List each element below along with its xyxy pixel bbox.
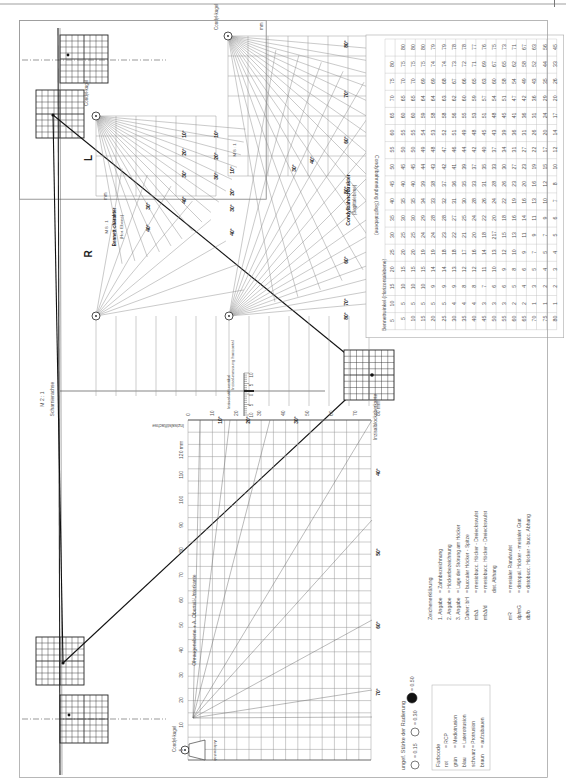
- table-cell: 17: [552, 112, 558, 118]
- zeichen-key: mR: [507, 612, 513, 620]
- zeichen-value: = mesialer Randwulst: [507, 544, 513, 593]
- table-cell: 64: [420, 95, 426, 101]
- table-cell: 8: [511, 268, 517, 271]
- table-cell: 55: [410, 130, 416, 136]
- table-cell: 4: [461, 302, 467, 305]
- table-row-header: 30: [451, 316, 457, 322]
- stift-tick: 70: [352, 410, 358, 416]
- table-row-header: 45: [481, 316, 487, 322]
- table-cell: 80: [400, 44, 406, 50]
- ohraugen-fan-angle: 10°: [217, 416, 223, 424]
- table-cell: 22: [501, 198, 507, 204]
- ohraugen-fan-line: [193, 420, 200, 718]
- table-cell: 60: [400, 112, 406, 118]
- condyl-angle-label: 50°: [343, 186, 349, 194]
- ohraugen-tick: 5: [178, 748, 184, 751]
- table-cell: 69: [430, 78, 436, 84]
- table-cell: 53: [471, 112, 477, 118]
- stift-tick: 40: [280, 410, 286, 416]
- farbcode-meaning: = Mediotrusion: [452, 715, 458, 748]
- table-cell: 52: [531, 61, 537, 67]
- bennett-angle-label: 40°: [145, 224, 151, 232]
- table-cell: 5: [511, 285, 517, 288]
- table-cell: 33: [552, 61, 558, 67]
- table-cell: 80: [420, 44, 426, 50]
- table-col-header: 25: [389, 249, 395, 255]
- condyl-ball-center: [228, 315, 230, 317]
- condyl-angle-label: 80°: [343, 40, 349, 48]
- table-cell: 25: [461, 215, 467, 221]
- table-cell: 32: [441, 198, 447, 204]
- ohraugen-tick: 80: [178, 547, 184, 553]
- table-cell: 5: [430, 302, 436, 305]
- table-col-header: 60: [389, 130, 395, 136]
- sag-vert-point-top: [67, 54, 70, 57]
- table-cell: 36: [451, 181, 457, 187]
- radierung-size-label: = 0.15: [412, 743, 418, 758]
- table-cell: 55: [400, 130, 406, 136]
- table-cell: 26: [552, 78, 558, 84]
- table-col-header: 50: [389, 164, 395, 170]
- table-cell: 40: [410, 181, 416, 187]
- table-cell: 70: [410, 78, 416, 84]
- table-cell: 48: [471, 130, 477, 136]
- table-cell: 10: [410, 283, 416, 289]
- table-cell: 34: [420, 198, 426, 204]
- ohraugen-fan-angle: 40°: [375, 468, 381, 476]
- table-cell: 45: [501, 112, 507, 118]
- table-cell: 46: [451, 147, 457, 153]
- condyl-angle-label: 20°: [213, 152, 219, 160]
- table-cell: 35: [542, 78, 548, 84]
- table-cell: 40: [400, 181, 406, 187]
- table-cell: 27: [451, 215, 457, 221]
- scale-m81-label-r: M 8 : 1: [104, 220, 109, 234]
- table-cell: 67: [521, 44, 527, 50]
- table-col-header: 15: [389, 283, 395, 289]
- table-cell: 33: [491, 164, 497, 170]
- table-col-header: 10: [389, 301, 395, 307]
- table-cell: 51: [451, 130, 457, 136]
- condylbahncharakter-label: Condylbahncharakter: [345, 174, 351, 225]
- table-cell: 31: [451, 198, 457, 204]
- table-cell: 47: [511, 95, 517, 101]
- table-cell: 75: [400, 61, 406, 67]
- ohraugen-tick: 90: [178, 522, 184, 528]
- stift-tick: 30: [256, 410, 262, 416]
- ohraugen-tick: 40: [178, 647, 184, 653]
- table-cell: 12: [552, 147, 558, 153]
- table-cell: 45: [410, 164, 416, 170]
- mm-label-top: mm: [259, 22, 264, 30]
- table-cell: 28: [491, 181, 497, 187]
- ohraugenebene-grid: [188, 420, 371, 760]
- table-col-header: 65: [389, 112, 395, 118]
- bennett-angle-label: 30°: [145, 202, 151, 210]
- table-cell: 10: [400, 283, 406, 289]
- table-cell: 217: [491, 231, 497, 240]
- table-cell: 19: [420, 249, 426, 255]
- table-cell: 68: [441, 78, 447, 84]
- table-cell: 12: [501, 249, 507, 255]
- ohraugen-fan-line: [193, 620, 372, 718]
- bennett-hor-ebene-label: (Hor. Ebene): [119, 214, 124, 239]
- table-cell: 10: [491, 266, 497, 272]
- radierung-size-icon: [407, 693, 417, 703]
- table-col-header: 5: [389, 319, 395, 322]
- fan-right-lower: [96, 168, 244, 396]
- table-cell: 14: [441, 266, 447, 272]
- table-cell: 6: [491, 285, 497, 288]
- table-cell: 45: [400, 164, 406, 170]
- farbcode-meaning: = aufzubauen: [479, 717, 485, 748]
- table-cell: 14: [430, 266, 436, 272]
- table-cell: 31: [521, 130, 527, 136]
- table-cell: 40: [481, 147, 487, 153]
- table-cell: 42: [471, 147, 477, 153]
- table-col-title: Bennettwinkel (Horizontalebene): [381, 258, 387, 331]
- condyl-angle-label: 70°: [343, 90, 349, 98]
- table-cell: 9: [542, 216, 548, 219]
- zeichen-value: = Zahnbezeichnung: [437, 549, 443, 593]
- articulator-diagram: ScharnierachseM 2 : 1Condyl-kugelLCondyl…: [0, 0, 566, 779]
- radierung-title: ungef. Stärke der Radierung: [400, 701, 406, 770]
- table-row-header: 50: [491, 316, 497, 322]
- table-cell: 71: [471, 61, 477, 67]
- inzisal-messung-horizontal-label: Inzisal-messung horizontal: [230, 340, 235, 390]
